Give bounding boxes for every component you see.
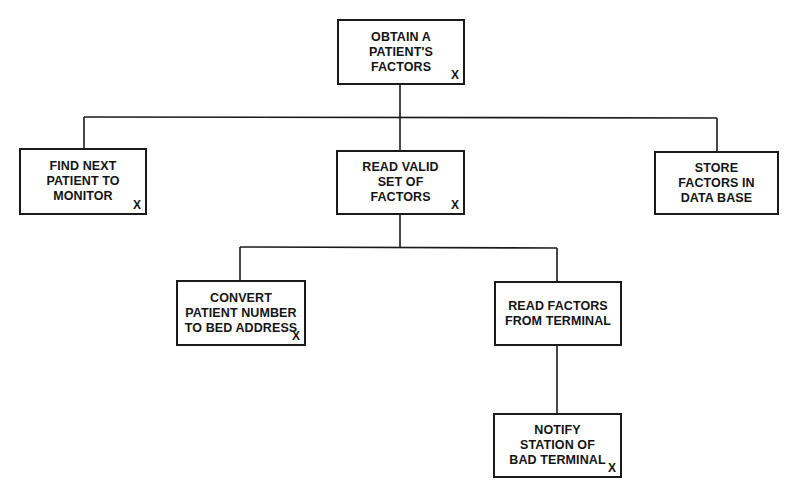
- node-read-valid-set: READ VALID SET OF FACTORS X: [336, 150, 465, 215]
- node-label: FIND NEXT PATIENT TO MONITOR: [46, 159, 119, 204]
- node-label: READ VALID SET OF FACTORS: [362, 160, 438, 205]
- node-label: STORE FACTORS IN DATA BASE: [678, 161, 754, 206]
- node-label: CONVERT PATIENT NUMBER TO BED ADDRESS: [185, 291, 298, 336]
- connector-level1-bus: [84, 117, 717, 118]
- x-mark: X: [451, 69, 459, 82]
- node-notify-station: NOTIFY STATION OF BAD TERMINAL X: [493, 413, 622, 478]
- connector-level2-bus: [240, 247, 557, 248]
- node-convert-patient-number: CONVERT PATIENT NUMBER TO BED ADDRESS X: [176, 280, 306, 346]
- node-read-factors-terminal: READ FACTORS FROM TERMINAL: [494, 281, 622, 346]
- node-store-factors: STORE FACTORS IN DATA BASE: [654, 151, 779, 215]
- x-mark: X: [451, 199, 459, 212]
- node-label: NOTIFY STATION OF BAD TERMINAL: [509, 423, 605, 468]
- node-label: OBTAIN A PATIENT'S FACTORS: [369, 30, 433, 75]
- node-obtain-patient-factors: OBTAIN A PATIENT'S FACTORS X: [337, 19, 465, 85]
- node-find-next-patient: FIND NEXT PATIENT TO MONITOR X: [19, 148, 147, 215]
- x-mark: X: [292, 330, 300, 343]
- x-mark: X: [608, 462, 616, 475]
- x-mark: X: [133, 199, 141, 212]
- node-label: READ FACTORS FROM TERMINAL: [505, 299, 611, 329]
